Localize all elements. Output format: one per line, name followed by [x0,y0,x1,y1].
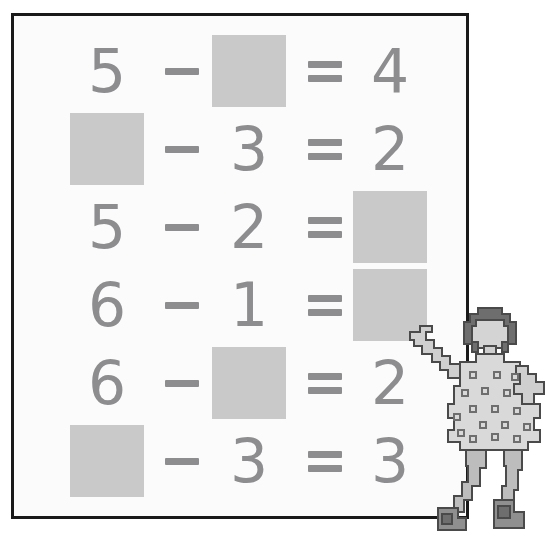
row-1-minus-operator [154,32,210,110]
row-3-minus-operator [154,188,210,266]
digit-value: 2 [371,353,409,413]
row-2-operand-b[interactable]: 3 [206,110,292,188]
row-6-operand-b[interactable]: 3 [206,422,292,500]
row-3-operand-b[interactable]: 2 [206,188,292,266]
equals-icon [308,61,342,82]
girl-figure-icon [408,300,548,535]
row-4-operand-b[interactable]: 1 [206,266,292,344]
equation-row: 3 2 [14,110,466,188]
row-4-operand-a[interactable]: 6 [64,266,150,344]
row-2-result[interactable]: 2 [346,110,434,188]
row-1-result[interactable]: 4 [346,32,434,110]
digit-value: 5 [88,41,126,101]
row-1-operand-b-blank[interactable] [206,32,292,110]
digit-value: 2 [371,119,409,179]
digit-value: 3 [230,119,268,179]
equation-row: 5 2 [14,188,466,266]
digit-value: 5 [88,197,126,257]
worksheet-stage: 5 4 3 [0,0,548,539]
blank-square[interactable] [212,347,286,419]
digit-value: 6 [88,353,126,413]
digit-value: 2 [230,197,268,257]
row-5-operand-b-blank[interactable] [206,344,292,422]
row-5-minus-operator [154,344,210,422]
row-6-operand-a-blank[interactable] [64,422,150,500]
equation-row: 5 4 [14,32,466,110]
minus-icon [165,380,199,387]
row-4-minus-operator [154,266,210,344]
digit-value: 6 [88,275,126,335]
minus-icon [165,458,199,465]
blank-square[interactable] [70,113,144,185]
blank-square[interactable] [70,425,144,497]
minus-icon [165,302,199,309]
equals-icon [308,451,342,472]
row-3-result-blank[interactable] [346,188,434,266]
equals-icon [308,217,342,238]
row-1-operand-a[interactable]: 5 [64,32,150,110]
row-2-minus-operator [154,110,210,188]
row-6-minus-operator [154,422,210,500]
digit-value: 4 [371,41,409,101]
blank-square[interactable] [353,191,427,263]
digit-value: 3 [371,431,409,491]
digit-value: 3 [230,431,268,491]
blank-square[interactable] [212,35,286,107]
minus-icon [165,224,199,231]
equals-icon [308,373,342,394]
worksheet-panel: 5 4 3 [11,13,469,519]
minus-icon [165,68,199,75]
equals-icon [308,295,342,316]
equation-row: 3 3 [14,422,466,500]
minus-icon [165,146,199,153]
equation-row: 6 1 [14,266,466,344]
equals-icon [308,139,342,160]
row-3-operand-a[interactable]: 5 [64,188,150,266]
equation-row: 6 2 [14,344,466,422]
row-5-operand-a[interactable]: 6 [64,344,150,422]
digit-value: 1 [230,275,268,335]
row-2-operand-a-blank[interactable] [64,110,150,188]
